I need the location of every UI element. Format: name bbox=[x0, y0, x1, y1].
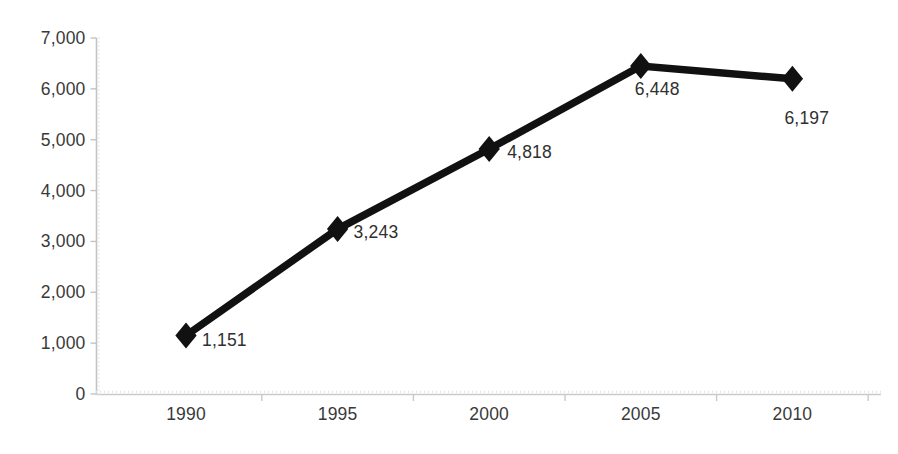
line-chart: 01,0002,0003,0004,0005,0006,0007,000 199… bbox=[0, 0, 898, 454]
data-point-value-label: 4,818 bbox=[507, 142, 552, 163]
y-axis-tick-marks bbox=[91, 38, 97, 394]
data-point-value-label: 1,151 bbox=[202, 330, 247, 351]
y-axis-tick-label: 0 bbox=[18, 384, 86, 405]
data-point-value-label: 6,448 bbox=[635, 79, 680, 100]
y-axis-tick-label: 2,000 bbox=[18, 282, 86, 303]
x-axis-minor-ticks bbox=[97, 391, 881, 393]
y-axis-tick-label: 6,000 bbox=[18, 78, 86, 99]
x-axis-tick-label: 2010 bbox=[773, 404, 813, 425]
data-point-markers bbox=[175, 53, 803, 348]
x-axis-tick-label: 1990 bbox=[166, 404, 206, 425]
x-axis-tick-label: 2005 bbox=[621, 404, 661, 425]
data-point-value-label: 6,197 bbox=[784, 108, 829, 129]
data-point-value-label: 3,243 bbox=[354, 222, 399, 243]
data-point-marker bbox=[782, 66, 803, 92]
data-point-marker bbox=[479, 136, 500, 162]
data-series-line bbox=[186, 66, 792, 335]
data-point-marker bbox=[630, 53, 651, 79]
y-axis-tick-label: 3,000 bbox=[18, 231, 86, 252]
y-axis-tick-label: 1,000 bbox=[18, 333, 86, 354]
x-axis-tick-label: 2000 bbox=[469, 404, 509, 425]
y-axis-tick-label: 7,000 bbox=[18, 28, 86, 49]
y-axis-tick-label: 4,000 bbox=[18, 180, 86, 201]
chart-canvas bbox=[0, 0, 898, 454]
y-axis-tick-label: 5,000 bbox=[18, 129, 86, 150]
y-axis-minor-ticks bbox=[98, 38, 100, 394]
x-axis-tick-label: 1995 bbox=[318, 404, 358, 425]
